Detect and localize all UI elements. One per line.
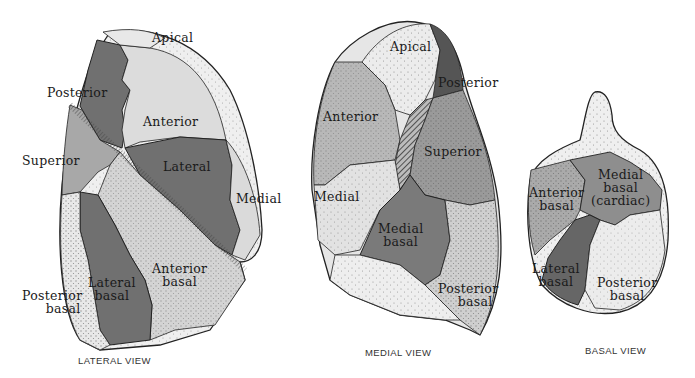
caption-lateral-view: LATERAL VIEW bbox=[78, 355, 151, 366]
label-basal-anterior-basal: Anterior basal bbox=[529, 186, 584, 212]
label-lateral-posterior: Posterior bbox=[47, 86, 107, 99]
label-medial-superior: Superior bbox=[424, 145, 482, 158]
label-medial-medial: Medial bbox=[314, 190, 359, 203]
label-lateral-anterior-basal: Anterior basal bbox=[152, 262, 207, 288]
label-lateral-apical: Apical bbox=[152, 31, 193, 44]
label-medial-posterior-basal: Posterior basal bbox=[438, 282, 498, 308]
caption-basal-view: BASAL VIEW bbox=[585, 345, 646, 356]
label-basal-lateral-basal: Lateral basal bbox=[532, 262, 580, 288]
label-lateral-medial: Medial bbox=[236, 192, 281, 205]
label-medial-posterior: Posterior bbox=[438, 76, 498, 89]
label-lateral-lateral-basal: Lateral basal bbox=[88, 276, 136, 302]
label-medial-anterior: Anterior bbox=[323, 110, 378, 123]
label-lateral-posterior-basal: Posterior basal bbox=[22, 289, 82, 315]
label-lateral-superior: Superior bbox=[22, 154, 80, 167]
label-medial-medial-basal: Medial basal bbox=[378, 222, 423, 248]
caption-medial-view: MEDIAL VIEW bbox=[365, 347, 431, 358]
label-basal-medial-basal: Medial basal (cardiac) bbox=[591, 168, 650, 207]
label-basal-posterior-basal: Posterior basal bbox=[597, 276, 657, 302]
label-lateral-lateral: Lateral bbox=[163, 160, 211, 173]
label-lateral-anterior: Anterior bbox=[143, 115, 198, 128]
label-medial-apical: Apical bbox=[390, 40, 431, 53]
lateral-anterior-segment bbox=[120, 45, 226, 148]
